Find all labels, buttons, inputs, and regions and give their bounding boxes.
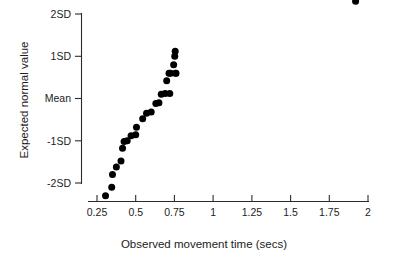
data-point: [172, 48, 179, 55]
data-point: [109, 171, 116, 178]
data-point: [163, 77, 170, 84]
x-tick-label-2: 0.75: [164, 206, 185, 218]
y-tick-label-0: 2SD: [51, 8, 72, 20]
chart-canvas: 2SD1SDMean-1SD-2SD 0.250.50.7511.251.51.…: [0, 0, 400, 261]
y-axis-tick-labels: 2SD1SDMean-1SD-2SD: [45, 8, 72, 189]
x-axis-tick-labels: 0.250.50.7511.251.51.752: [87, 206, 371, 218]
data-point: [102, 192, 109, 199]
data-point: [352, 0, 359, 5]
x-tick-label-5: 1.5: [283, 206, 298, 218]
data-point: [133, 124, 140, 131]
data-point: [118, 158, 125, 165]
y-tick-label-2: Mean: [45, 92, 71, 104]
data-point: [132, 131, 139, 138]
x-tick-label-3: 1: [210, 206, 216, 218]
data-point: [113, 163, 120, 170]
x-tick-label-7: 2: [365, 206, 371, 218]
x-tick-label-4: 1.25: [242, 206, 263, 218]
y-axis-title: Expected normal value: [18, 42, 30, 159]
y-axis-ticks: [76, 14, 82, 183]
data-points: [102, 0, 359, 199]
data-point: [148, 109, 155, 116]
y-tick-label-4: -2SD: [47, 177, 71, 189]
y-tick-label-1: 1SD: [51, 50, 72, 62]
data-point: [170, 61, 177, 68]
data-point: [119, 145, 126, 152]
data-point: [172, 70, 179, 77]
x-tick-label-6: 1.75: [319, 206, 340, 218]
x-axis-title: Observed movement time (secs): [121, 238, 287, 250]
data-point: [166, 90, 173, 97]
y-tick-label-3: -1SD: [47, 135, 71, 147]
x-tick-label-1: 0.5: [128, 206, 143, 218]
data-point: [108, 184, 115, 191]
data-point: [155, 99, 162, 106]
normal-probability-plot: 2SD1SDMean-1SD-2SD 0.250.50.7511.251.51.…: [0, 0, 400, 261]
x-tick-label-0: 0.25: [87, 206, 108, 218]
x-axis-ticks: [97, 196, 368, 202]
